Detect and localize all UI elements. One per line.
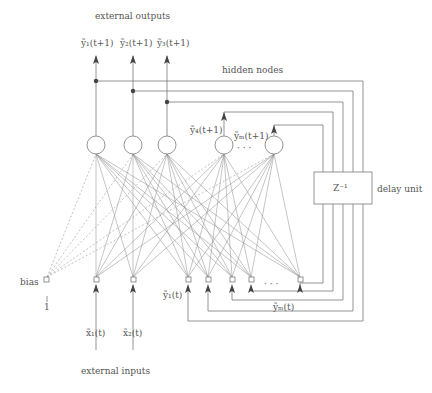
feedback-node-1 — [186, 277, 191, 282]
input-label-2: x̃₂(t) — [123, 329, 142, 338]
feedback-node-2 — [206, 277, 211, 282]
feedback-input-label-m: ỹₘ(t) — [273, 303, 294, 312]
output-label-3: ỹ₃(t+1) — [157, 39, 190, 48]
hidden-node-1 — [87, 136, 105, 154]
external-outputs-label: external outputs — [95, 12, 170, 21]
input-ellipsis: · · · — [264, 280, 278, 289]
output-label-1: ỹ₁(t+1) — [81, 39, 114, 48]
hidden-nodes-label: hidden nodes — [222, 66, 283, 75]
hidden-ellipsis: · · · — [237, 144, 251, 153]
feedback-node-m — [298, 277, 303, 282]
input-node-1 — [94, 277, 99, 282]
delay-operator: Z⁻¹ — [333, 184, 348, 193]
input-label-1: x̃₁(t) — [86, 329, 105, 338]
network-svg — [0, 0, 432, 393]
input-node-2 — [131, 277, 136, 282]
feedback-input-label-1: ỹ₁(t) — [163, 291, 182, 300]
hidden-output-label-m: ỹₘ(t+1) — [234, 132, 269, 141]
external-inputs-label: external inputs — [81, 367, 150, 376]
hidden-output-label-4: ỹ₄(t+1) — [190, 126, 223, 135]
recurrent-network-diagram: external outputs ỹ₁(t+1) ỹ₂(t+1) ỹ₃(t+1)… — [0, 0, 432, 393]
feedback-node-3 — [230, 277, 235, 282]
hidden-node-2 — [124, 136, 142, 154]
hidden-node-3 — [158, 136, 176, 154]
bias-node — [44, 277, 49, 282]
bias-label: bias — [20, 278, 39, 287]
feedback-node-4 — [249, 277, 254, 282]
delay-unit-label: delay unit — [377, 185, 422, 194]
hidden-node-4 — [215, 136, 233, 154]
output-label-2: ỹ₂(t+1) — [120, 39, 153, 48]
bias-value: 1 — [44, 303, 50, 312]
